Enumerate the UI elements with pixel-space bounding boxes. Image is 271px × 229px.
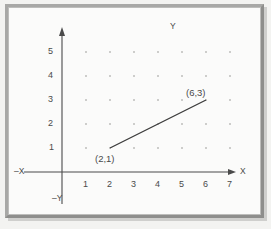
x-axis — [24, 169, 236, 175]
grid-dots — [85, 51, 230, 148]
coordinate-plane-svg — [0, 0, 271, 229]
line-segment — [110, 100, 206, 148]
y-axis — [59, 27, 65, 204]
figure-canvas: Y X –X –Y 5 4 3 2 1 1 2 3 4 5 6 7 (2,1) … — [0, 0, 271, 229]
